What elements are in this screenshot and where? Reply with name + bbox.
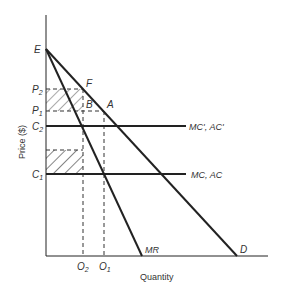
o2-label: O2 [77, 261, 89, 273]
mr-label: MR [145, 245, 159, 255]
x-axis-label: Quantity [140, 272, 174, 282]
point-b-label: B [86, 99, 93, 110]
demand-label: D [240, 244, 247, 255]
p2-label: P2 [32, 84, 43, 96]
monopoly-diagram: E F B A P2 P1 C2 C1 O2 O1 MC', AC' MC, A… [0, 0, 283, 295]
c1-label: C1 [32, 169, 43, 181]
o1-label: O1 [99, 261, 111, 273]
point-a-label: A [106, 99, 114, 110]
profit-area-lower [46, 150, 83, 174]
y-axis-label: Price ($) [17, 125, 27, 159]
mc-label: MC, AC [191, 170, 223, 180]
c2-label: C2 [32, 121, 43, 133]
p1-label: P1 [32, 105, 43, 117]
point-e-label: E [34, 44, 41, 55]
point-f-label: F [86, 78, 93, 89]
mc-prime-label: MC', AC' [189, 122, 224, 132]
profit-area-upper [46, 89, 83, 111]
